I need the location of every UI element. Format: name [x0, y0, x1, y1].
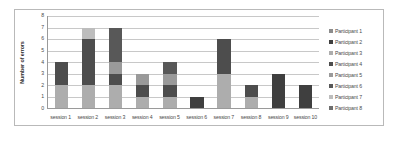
- bar-segment[interactable]: [163, 85, 176, 97]
- legend-item[interactable]: Participant 4: [329, 58, 387, 69]
- bar-slot: [292, 16, 319, 108]
- y-axis-tick-label: 6: [41, 37, 44, 42]
- bar-slot: [211, 16, 238, 108]
- bar-slot: [265, 16, 292, 108]
- bar-segment[interactable]: [136, 74, 149, 86]
- bar-segment[interactable]: [109, 74, 122, 86]
- bar-segment[interactable]: [136, 85, 149, 97]
- legend-item-label: Participant 3: [335, 50, 362, 56]
- bar-segment[interactable]: [163, 97, 176, 109]
- bar-slot: [75, 16, 102, 108]
- x-axis-tick-label: session 5: [156, 111, 183, 123]
- y-axis-tick-label: 2: [41, 83, 44, 88]
- legend-item-label: Participant 1: [335, 28, 362, 34]
- bar-segment[interactable]: [136, 97, 149, 109]
- legend-item-label: Participant 8: [335, 105, 362, 111]
- x-axis-tick-label: session 6: [183, 111, 210, 123]
- bar-segment[interactable]: [82, 85, 95, 108]
- bar-series-group: [48, 16, 319, 108]
- legend-swatch-icon: [329, 51, 333, 55]
- stacked-bar[interactable]: [245, 85, 258, 108]
- stacked-bar[interactable]: [299, 85, 312, 108]
- bar-segment[interactable]: [245, 97, 258, 109]
- legend-item-label: Participant 5: [335, 72, 362, 78]
- bar-slot: [238, 16, 265, 108]
- bar-segment[interactable]: [109, 28, 122, 63]
- stacked-bar[interactable]: [55, 62, 68, 108]
- x-axis-tick-label: session 1: [47, 111, 74, 123]
- x-axis-tick-label: session 2: [74, 111, 101, 123]
- x-axis-tick-label: session 9: [265, 111, 292, 123]
- legend-item[interactable]: Participant 5: [329, 69, 387, 80]
- legend-item[interactable]: Participant 8: [329, 103, 387, 114]
- plot-axes: [47, 16, 319, 109]
- bar-slot: [129, 16, 156, 108]
- y-axis-tick-label: 8: [41, 13, 44, 18]
- bar-segment[interactable]: [299, 85, 312, 108]
- plot-area: [47, 16, 319, 109]
- legend-item[interactable]: Participant 7: [329, 92, 387, 103]
- stacked-bar[interactable]: [109, 28, 122, 109]
- bar-segment[interactable]: [55, 62, 68, 85]
- bar-slot: [48, 16, 75, 108]
- legend-swatch-icon: [329, 106, 333, 110]
- y-axis-tick-label: 4: [41, 60, 44, 65]
- legend-item[interactable]: Participant 2: [329, 36, 387, 47]
- bar-segment[interactable]: [190, 97, 203, 109]
- legend-item[interactable]: Participant 3: [329, 47, 387, 58]
- y-axis-tick-labels: 012345678: [30, 16, 44, 109]
- bar-segment[interactable]: [109, 62, 122, 74]
- legend-swatch-icon: [329, 40, 333, 44]
- stacked-bar[interactable]: [136, 74, 149, 109]
- bar-slot: [102, 16, 129, 108]
- legend-swatch-icon: [329, 29, 333, 33]
- y-axis-tick-label: 1: [41, 95, 44, 100]
- legend-swatch-icon: [329, 95, 333, 99]
- legend-item-label: Participant 6: [335, 83, 362, 89]
- stacked-bar[interactable]: [217, 39, 230, 108]
- bar-segment[interactable]: [109, 85, 122, 108]
- legend-item-label: Participant 2: [335, 39, 362, 45]
- x-axis-tick-label: session 3: [101, 111, 128, 123]
- bar-segment[interactable]: [217, 39, 230, 74]
- x-axis-tick-label: session 10: [292, 111, 319, 123]
- stacked-bar[interactable]: [163, 62, 176, 108]
- bar-segment[interactable]: [217, 74, 230, 109]
- bar-segment[interactable]: [82, 28, 95, 40]
- y-axis-tick-label: 7: [41, 25, 44, 30]
- bar-segment[interactable]: [245, 85, 258, 97]
- bar-segment[interactable]: [163, 62, 176, 74]
- stacked-bar[interactable]: [272, 74, 285, 109]
- chart-legend: Participant 1Participant 2Participant 3P…: [329, 25, 387, 114]
- bar-segment[interactable]: [55, 85, 68, 108]
- x-axis-tick-labels: session 1session 2session 3session 4sess…: [47, 111, 319, 123]
- bar-segment[interactable]: [163, 74, 176, 86]
- stacked-bar[interactable]: [190, 97, 203, 109]
- bar-segment[interactable]: [82, 39, 95, 85]
- x-axis-tick-label: session 7: [210, 111, 237, 123]
- legend-swatch-icon: [329, 62, 333, 66]
- x-axis-tick-label: session 4: [129, 111, 156, 123]
- y-axis-tick-label: 5: [41, 48, 44, 53]
- legend-item[interactable]: Participant 6: [329, 80, 387, 91]
- bar-segment[interactable]: [272, 74, 285, 109]
- y-axis-tick-label: 3: [41, 72, 44, 77]
- chart-container: Number of errors 012345678 session 1sess…: [0, 0, 399, 144]
- legend-swatch-icon: [329, 73, 333, 77]
- bar-slot: [156, 16, 183, 108]
- legend-item-label: Participant 7: [335, 94, 362, 100]
- legend-item-label: Participant 4: [335, 61, 362, 67]
- stacked-bar[interactable]: [82, 28, 95, 109]
- bar-slot: [183, 16, 210, 108]
- y-axis-title: Number of errors: [17, 16, 27, 109]
- y-axis-tick-label: 0: [41, 106, 44, 111]
- legend-item[interactable]: Participant 1: [329, 25, 387, 36]
- legend-swatch-icon: [329, 84, 333, 88]
- x-axis-tick-label: session 8: [237, 111, 264, 123]
